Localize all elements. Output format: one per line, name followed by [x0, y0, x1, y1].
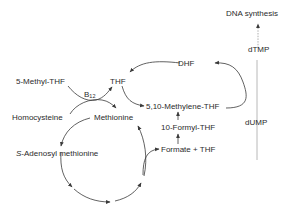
arrow-cycle-segment-2 — [74, 189, 110, 202]
b12-subscript: 12 — [89, 93, 95, 99]
label-methionine: Methionine — [94, 113, 133, 122]
label-s-adenosyl-methionine: S-Adenosyl methionine — [16, 149, 98, 158]
arrow-methionine-to-sam — [61, 118, 90, 146]
arrow-methylene-to-dhf — [215, 63, 246, 108]
label-dtmp: dTMP — [248, 45, 269, 54]
label-methylene-thf: 5,10-Methylene-THF — [146, 102, 219, 111]
label-homocysteine: Homocysteine — [12, 113, 63, 122]
arrow-dhf-to-thf — [130, 62, 180, 72]
arrow-cycle-segment-3 — [115, 183, 141, 201]
arrow-homocysteine-to-methionine — [70, 100, 116, 114]
folate-cycle-diagram: DNA synthesis dTMP DHF THF 5-Methyl-THF … — [0, 0, 291, 215]
sam-rest: -Adenosyl methionine — [21, 149, 98, 158]
label-formate-thf: Formate + THF — [161, 145, 215, 154]
label-dna-synthesis: DNA synthesis — [226, 9, 278, 18]
arrow-thf-to-methylene — [122, 86, 144, 106]
label-5-methyl-thf: 5-Methyl-THF — [16, 77, 65, 86]
label-10-formyl-thf: 10-Formyl-THF — [161, 123, 215, 132]
label-thf: THF — [110, 77, 126, 86]
arrow-cycle-to-methionine — [138, 126, 146, 176]
label-dump: dUMP — [245, 118, 267, 127]
label-dhf: DHF — [178, 59, 194, 68]
label-b12-cofactor: B12 — [84, 90, 95, 101]
